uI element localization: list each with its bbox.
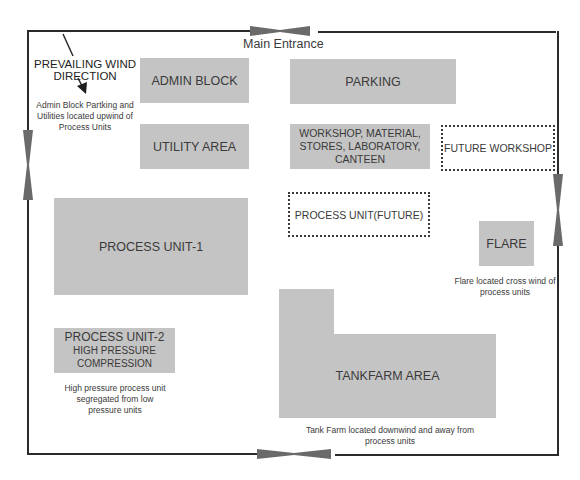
area-future-workshop: FUTURE WORKSHOP bbox=[441, 125, 555, 171]
area-tankfarm-left-block bbox=[279, 289, 334, 335]
area-tankfarm: TANKFARM AREA bbox=[279, 334, 496, 418]
boundary-bottom-right bbox=[335, 454, 559, 456]
boundary-bottom-left bbox=[27, 453, 257, 455]
area-flare: FLARE bbox=[479, 221, 534, 266]
process-unit-2-note: High pressure process unit segregated fr… bbox=[50, 383, 180, 416]
wind-note-line3: Process Units bbox=[35, 122, 135, 133]
area-process-unit-1: PROCESS UNIT-1 bbox=[54, 198, 248, 295]
boundary-top-right bbox=[318, 31, 556, 33]
tankfarm-note: Tank Farm located downwind and away from… bbox=[290, 425, 490, 447]
process-unit-2-sub1: HIGH PRESSURE bbox=[73, 344, 156, 357]
wind-title-line2: DIRECTION bbox=[30, 70, 140, 82]
tankfarm-note-line2: process units bbox=[290, 436, 490, 447]
wind-note-line1: Admin Block Partking and bbox=[35, 100, 135, 111]
process-unit-1-label: PROCESS UNIT-1 bbox=[99, 240, 203, 254]
area-process-unit-future: PROCESS UNIT(FUTURE) bbox=[288, 192, 430, 237]
wind-title: PREVAILING WIND DIRECTION bbox=[30, 58, 140, 82]
boundary-left-top bbox=[27, 30, 29, 130]
area-workshop: WORKSHOP, MATERIAL, STORES, LABORATORY, … bbox=[290, 124, 430, 169]
process-unit-future-label: PROCESS UNIT(FUTURE) bbox=[295, 209, 423, 221]
wind-note-line2: Utilities located upwind of bbox=[35, 111, 135, 122]
utility-area-label: UTILITY AREA bbox=[153, 140, 236, 154]
gate-left-icon bbox=[23, 130, 33, 200]
boundary-right-top bbox=[557, 31, 559, 174]
pu2-note-line2: segregated from low bbox=[50, 394, 180, 405]
pu2-note-line1: High pressure process unit bbox=[50, 383, 180, 394]
area-utility: UTILITY AREA bbox=[140, 124, 249, 169]
tankfarm-label: TANKFARM AREA bbox=[336, 369, 440, 383]
workshop-label-line2: STORES, LABORATORY, bbox=[300, 140, 421, 153]
flare-note: Flare located cross wind of process unit… bbox=[440, 276, 570, 298]
gate-bottom-icon bbox=[257, 449, 331, 459]
parking-label: PARKING bbox=[345, 75, 400, 89]
process-unit-2-label: PROCESS UNIT-2 bbox=[64, 331, 164, 344]
future-workshop-label: FUTURE WORKSHOP bbox=[444, 142, 552, 154]
boundary-top bbox=[27, 30, 280, 32]
gate-right-icon bbox=[553, 174, 563, 246]
wind-title-line1: PREVAILING WIND bbox=[30, 58, 140, 70]
workshop-label-line3: CANTEEN bbox=[335, 153, 385, 166]
gate-top-icon bbox=[250, 26, 310, 36]
boundary-left-bottom bbox=[27, 200, 29, 455]
area-parking: PARKING bbox=[290, 59, 456, 104]
flare-note-line1: Flare located cross wind of bbox=[440, 276, 570, 287]
area-process-unit-2: PROCESS UNIT-2 HIGH PRESSURE COMPRESSION bbox=[54, 328, 175, 373]
area-admin-block: ADMIN BLOCK bbox=[140, 58, 249, 103]
wind-note: Admin Block Partking and Utilities locat… bbox=[35, 100, 135, 133]
process-unit-2-sub2: COMPRESSION bbox=[77, 357, 152, 370]
flare-note-line2: process units bbox=[440, 287, 570, 298]
admin-block-label: ADMIN BLOCK bbox=[151, 74, 237, 88]
main-entrance-label: Main Entrance bbox=[243, 37, 324, 51]
workshop-label-line1: WORKSHOP, MATERIAL, bbox=[299, 127, 421, 140]
flare-label: FLARE bbox=[486, 237, 526, 251]
pu2-note-line3: pressure units bbox=[50, 405, 180, 416]
tankfarm-note-line1: Tank Farm located downwind and away from bbox=[290, 425, 490, 436]
